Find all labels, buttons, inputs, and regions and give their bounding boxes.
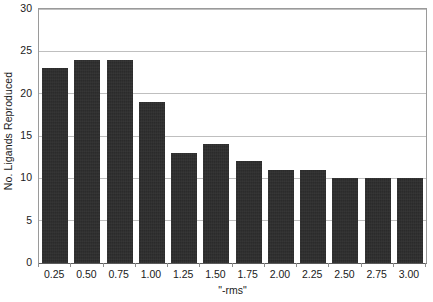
x-axis-tick-label: 1.75 (237, 268, 257, 281)
x-axis-tick-label: 1.25 (173, 268, 193, 281)
bar (42, 68, 68, 263)
bar (74, 60, 100, 263)
x-axis-tick-label: 2.25 (302, 268, 322, 281)
y-axis-tick-labels: 051015202530 (14, 0, 36, 270)
plot-area (38, 8, 427, 264)
bars-layer (39, 9, 426, 263)
x-axis-tick (103, 263, 104, 267)
x-axis-tick (199, 263, 200, 267)
bar (332, 178, 358, 263)
x-axis-tick-label: 0.75 (108, 268, 128, 281)
y-axis-title-label: No. Ligands Reproduced (2, 72, 14, 190)
x-axis-tick (135, 263, 136, 267)
x-axis-tick-label: 0.25 (44, 268, 64, 281)
y-axis-tick-label: 20 (20, 88, 32, 98)
x-axis-tick (328, 263, 329, 267)
bar (300, 170, 326, 263)
x-axis-tick (38, 263, 39, 267)
x-axis-tick-labels: 0.250.500.751.001.251.501.752.002.252.50… (38, 268, 427, 284)
bar (268, 170, 294, 263)
bar (107, 60, 133, 263)
x-axis-tick (232, 263, 233, 267)
bar-chart-figure: No. Ligands Reproduced 051015202530 0.25… (0, 0, 433, 302)
x-axis-tick-label: 2.75 (366, 268, 386, 281)
x-axis-tick (425, 263, 426, 267)
x-axis-tick (393, 263, 394, 267)
x-axis-tick (167, 263, 168, 267)
y-axis-tick-label: 15 (20, 130, 32, 140)
x-axis-tick-label: 2.50 (334, 268, 354, 281)
x-axis-tick-label: 0.50 (76, 268, 96, 281)
x-axis-tick (361, 263, 362, 267)
x-axis-tick-label: 1.50 (205, 268, 225, 281)
bar (171, 153, 197, 263)
x-axis-title: "-rms" (38, 284, 427, 297)
bar (203, 144, 229, 263)
y-axis-tick-label: 25 (20, 45, 32, 55)
x-axis-tick-label: 1.00 (141, 268, 161, 281)
x-axis-tick (70, 263, 71, 267)
bar (236, 161, 262, 263)
y-axis-tick-label: 5 (26, 215, 32, 225)
x-axis-tick-label: 3.00 (399, 268, 419, 281)
x-axis-tick-label: 2.00 (270, 268, 290, 281)
x-axis-tick (296, 263, 297, 267)
y-axis-tick-label: 30 (20, 3, 32, 13)
y-axis-tick-label: 0 (26, 257, 32, 267)
y-axis-tick-label: 10 (20, 172, 32, 182)
bar (139, 102, 165, 263)
x-axis-tick (264, 263, 265, 267)
bar (365, 178, 391, 263)
bar (397, 178, 423, 263)
